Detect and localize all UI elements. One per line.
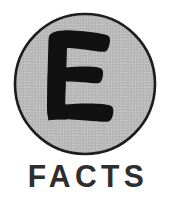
wordmark-text: FACTS bbox=[3, 162, 170, 192]
circle-badge bbox=[11, 10, 158, 157]
wordmark: FACTS bbox=[0, 162, 172, 194]
logo-container: FACTS bbox=[0, 0, 172, 199]
circle-badge-graphic bbox=[11, 10, 158, 157]
